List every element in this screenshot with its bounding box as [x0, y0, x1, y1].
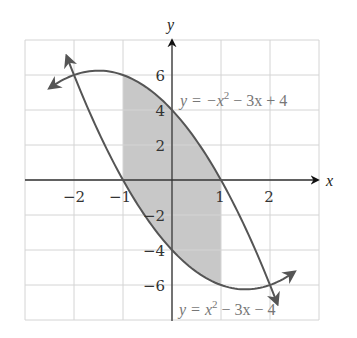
equation-suffix: − 3x − 4: [218, 301, 276, 318]
x-axis-label: x: [325, 172, 333, 189]
y-tick-label: 4: [155, 102, 165, 120]
equation-prefix: y = x: [177, 301, 212, 319]
lower-curve-equation-label: y = x2 − 3x − 4: [177, 298, 276, 319]
y-axis-label: y: [165, 16, 175, 34]
area-between-curves-figure: x y −2 −1 1 2 6 4 2 −2 −4 −6 y = −x2 − 3…: [0, 0, 357, 338]
y-tick-label: 6: [155, 67, 165, 85]
x-tick-label: −2: [63, 188, 85, 206]
x-tick-label: 1: [215, 188, 225, 206]
y-tick-label: −2: [143, 207, 165, 225]
x-tick-label: 2: [264, 188, 274, 206]
equation-suffix: − 3x + 4: [229, 92, 287, 109]
upper-curve-equation-label: y = −x2 − 3x + 4: [178, 89, 287, 110]
equation-prefix: y = −x: [178, 92, 224, 110]
y-tick-label: −4: [143, 242, 165, 260]
y-tick-label: −6: [143, 277, 165, 295]
x-tick-label: −1: [109, 188, 131, 206]
y-tick-label: 2: [155, 137, 165, 155]
